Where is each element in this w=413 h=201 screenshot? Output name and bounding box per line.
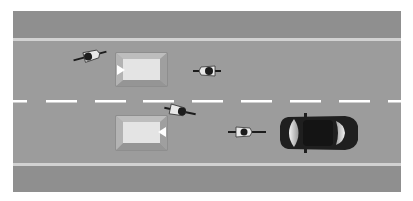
car-mirror (304, 113, 307, 117)
center-lane-marking (13, 100, 401, 103)
lane-dash (143, 100, 174, 103)
lane-dash (192, 100, 223, 103)
traffic-island-upper (116, 53, 167, 86)
road-scene (0, 0, 413, 201)
lane-dash (388, 100, 401, 103)
cyclist-helmet-icon (205, 67, 213, 75)
traffic-island-lower (116, 116, 167, 150)
car-roof (303, 120, 333, 146)
cyclist-helmet-icon (241, 129, 248, 136)
upper-sidewalk (13, 11, 401, 38)
upper-curb-line (13, 38, 401, 41)
car-mirror (304, 149, 307, 153)
lane-dash (339, 100, 370, 103)
lower-curb-line (13, 163, 401, 166)
lane-dash (46, 100, 77, 103)
lane-dash (95, 100, 126, 103)
lower-sidewalk (13, 166, 401, 192)
lane-dash (241, 100, 272, 103)
lane-dash (13, 100, 27, 103)
car (280, 113, 358, 153)
lane-dash (290, 100, 321, 103)
